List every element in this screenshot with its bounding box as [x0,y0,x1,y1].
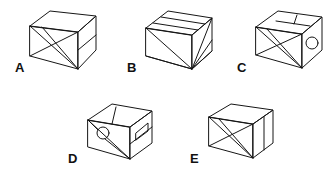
option-label-d: D [68,152,78,165]
cube-c-right-face [302,17,322,68]
cube-c-top-panel-line-1 [276,21,310,26]
cube-drawing-b [144,10,214,72]
option-label-a: A [15,61,25,74]
cube-c-top-panel-line-2 [294,15,297,24]
option-a-cube [28,10,98,72]
option-e-cube [207,102,275,162]
cube-e-left-diagonal-2 [209,124,253,146]
cube-drawing-a [28,10,98,72]
option-d-cube [86,102,154,162]
cube-d-top-divider [112,107,116,124]
cube-c-circle-marker [306,37,318,49]
cube-drawing-c [254,10,324,72]
cube-d-right-split [130,127,152,144]
cube-a-top-face [30,11,96,32]
cube-b-top-band-2 [161,17,205,24]
cube-c-left-diagonal-3 [267,29,302,68]
cube-drawing-e [207,102,275,162]
option-label-e: E [190,152,199,165]
cube-e-top-face [209,104,273,124]
cube-a-right-split [78,35,96,50]
cube-d-top-face [88,104,152,127]
cube-c-left-diagonal-2 [256,34,302,55]
cube-a-left-diagonal-2 [30,32,78,56]
cube-a-left-diagonal-3 [42,27,78,69]
cube-drawing-d [86,102,154,162]
option-c-cube [254,10,324,72]
cube-e-right-face [253,110,273,158]
figure-canvas: A B [0,0,334,184]
option-label-c: C [237,61,247,74]
option-label-b: B [127,61,137,74]
option-b-cube [144,10,214,72]
cube-b-top-band-1 [153,23,198,30]
